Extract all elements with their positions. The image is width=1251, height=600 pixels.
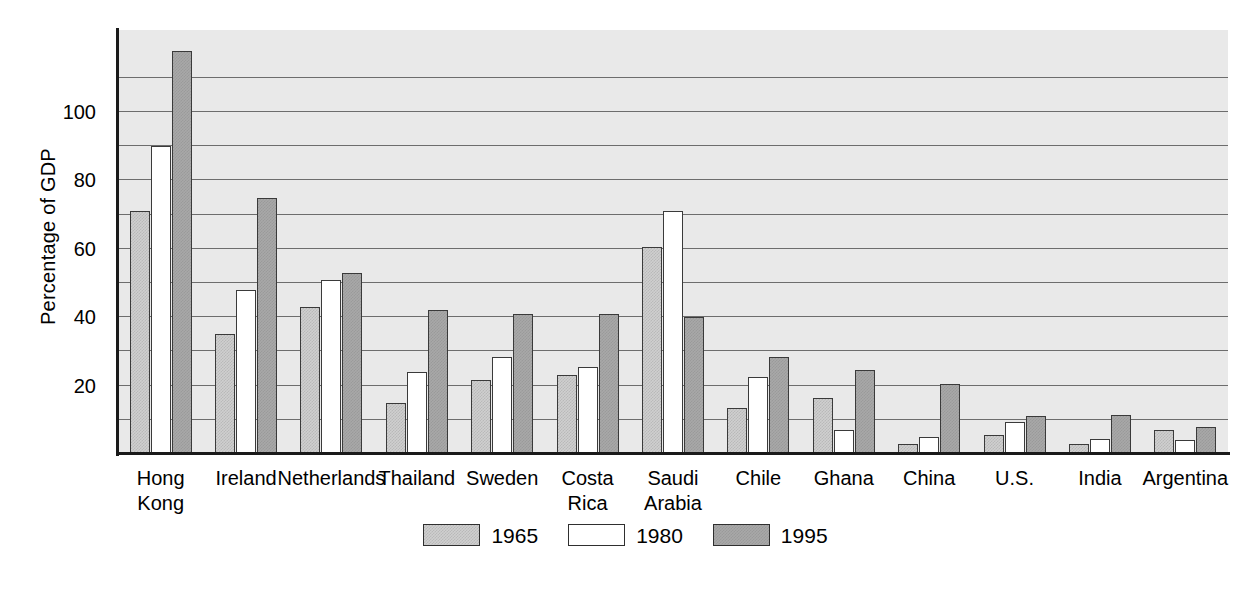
bar [642, 247, 662, 454]
bar [1196, 427, 1216, 454]
bar [342, 273, 362, 454]
bars-layer [118, 30, 1228, 454]
x-axis-category-labels: HongKongIrelandNetherlandsThailandSweden… [118, 466, 1228, 522]
bar [1005, 422, 1025, 454]
chart-container: Percentage of GDP 20406080100 HongKongIr… [0, 0, 1251, 600]
bar [300, 307, 320, 454]
y-tick-label: 100 [36, 102, 96, 122]
bar-group [118, 30, 203, 454]
bar-group [203, 30, 288, 454]
bar [1154, 430, 1174, 454]
bar-group [630, 30, 715, 454]
bar-group [972, 30, 1057, 454]
bar [578, 367, 598, 454]
bar-group [801, 30, 886, 454]
chart-legend: 196519801995 [0, 524, 1251, 546]
bar [834, 430, 854, 454]
bar [151, 146, 171, 454]
bar-group [460, 30, 545, 454]
y-tick-label: 20 [36, 376, 96, 396]
legend-item: 1995 [713, 524, 828, 546]
x-tick-label-line: Kong [106, 491, 215, 516]
legend-label: 1995 [781, 525, 828, 546]
legend-swatch [713, 524, 770, 546]
x-tick-label: Argentina [1131, 466, 1240, 491]
y-tick-label: 80 [36, 170, 96, 190]
bar [257, 198, 277, 454]
bar [407, 372, 427, 454]
bar [663, 211, 683, 454]
bar-group [545, 30, 630, 454]
bar [813, 398, 833, 454]
bar [557, 375, 577, 454]
x-tick-label-line: Arabia [618, 491, 727, 516]
bar [855, 370, 875, 454]
bar-group [716, 30, 801, 454]
bar-group [289, 30, 374, 454]
bar [769, 357, 789, 454]
bar [130, 211, 150, 454]
y-tick-label: 60 [36, 239, 96, 259]
x-axis-line [116, 452, 1230, 455]
bar [321, 280, 341, 454]
bar [940, 384, 960, 454]
bar [684, 317, 704, 454]
bar [599, 314, 619, 454]
bar-group [1057, 30, 1142, 454]
bar-group [374, 30, 459, 454]
legend-label: 1965 [491, 525, 538, 546]
bar [1026, 416, 1046, 454]
bar [727, 408, 747, 454]
bar [513, 314, 533, 454]
bar [471, 380, 491, 454]
bar [1111, 415, 1131, 454]
plot-area [118, 30, 1228, 454]
bar [215, 334, 235, 454]
bar-group [1143, 30, 1228, 454]
y-axis-line [116, 28, 119, 456]
legend-swatch [423, 524, 480, 546]
bar [428, 310, 448, 454]
legend-swatch [568, 524, 625, 546]
legend-label: 1980 [636, 525, 683, 546]
bar [236, 290, 256, 454]
bar [386, 403, 406, 454]
legend-item: 1965 [423, 524, 538, 546]
legend-item: 1980 [568, 524, 683, 546]
bar [492, 357, 512, 454]
x-tick-label-line: Argentina [1131, 466, 1240, 491]
bar [172, 51, 192, 454]
y-tick-label: 40 [36, 307, 96, 327]
bar-group [886, 30, 971, 454]
bar [748, 377, 768, 454]
